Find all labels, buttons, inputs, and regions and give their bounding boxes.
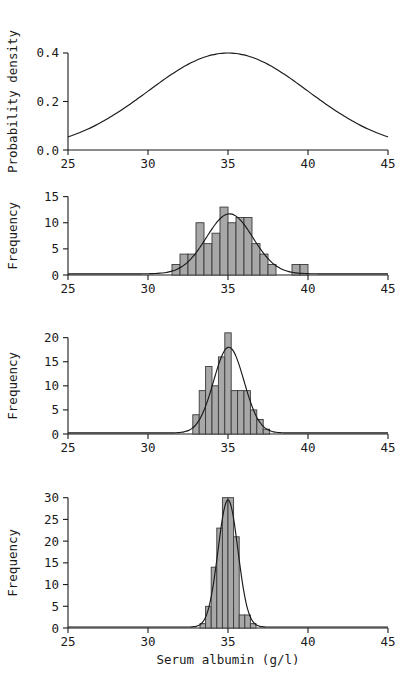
histogram-bars xyxy=(172,207,308,275)
panel-4: 051015202530Frequency2530354045Serum alb… xyxy=(5,490,396,667)
y-tick-label: 10 xyxy=(44,378,59,393)
y-tick-label: 20 xyxy=(44,330,59,345)
histogram-bar xyxy=(245,615,251,628)
y-axis-title: Frequency xyxy=(5,201,20,269)
y-tick-label: 0 xyxy=(51,268,59,283)
x-tick-label: 35 xyxy=(220,281,235,296)
x-tick-label: 45 xyxy=(380,440,395,455)
y-axis-title: Frequency xyxy=(5,351,20,419)
y-axis-title: Frequency xyxy=(5,529,20,597)
histogram-bar xyxy=(196,223,204,275)
y-tick-label: 15 xyxy=(44,189,59,204)
panel-3: 05101520Frequency2530354045 xyxy=(5,330,396,455)
histogram-bar xyxy=(212,233,220,275)
y-axis-title: Probability density xyxy=(5,30,20,173)
histogram-bar xyxy=(228,223,236,275)
x-tick-label: 35 xyxy=(220,634,235,649)
y-tick-label: 10 xyxy=(44,577,59,592)
y-tick-label: 0 xyxy=(51,427,59,442)
x-tick-label: 40 xyxy=(300,156,315,171)
multi-panel-histogram-figure: 0.00.20.4Probability density253035404505… xyxy=(0,0,406,687)
histogram-bar xyxy=(239,615,245,628)
histogram-bar xyxy=(217,528,223,628)
histogram-bar xyxy=(212,386,218,434)
histogram-bar xyxy=(218,357,224,434)
y-tick-label: 5 xyxy=(51,402,59,417)
y-tick-label: 0.4 xyxy=(36,45,59,60)
x-tick-label: 40 xyxy=(300,281,315,296)
y-tick-label: 0.0 xyxy=(36,143,59,158)
x-tick-label: 35 xyxy=(220,440,235,455)
histogram-bar xyxy=(238,391,244,434)
x-tick-label: 30 xyxy=(140,440,155,455)
histogram-bar xyxy=(268,265,276,275)
histogram-bar xyxy=(250,410,256,434)
y-tick-label: 5 xyxy=(51,599,59,614)
y-tick-label: 15 xyxy=(44,354,59,369)
y-tick-label: 20 xyxy=(44,534,59,549)
y-tick-label: 10 xyxy=(44,215,59,230)
x-tick-label: 25 xyxy=(60,634,75,649)
y-tick-label: 25 xyxy=(44,512,59,527)
x-tick-label: 30 xyxy=(140,156,155,171)
x-tick-label: 45 xyxy=(380,156,395,171)
x-tick-label: 25 xyxy=(60,281,75,296)
y-tick-label: 15 xyxy=(44,555,59,570)
density-curve xyxy=(68,53,388,137)
y-tick-label: 5 xyxy=(51,241,59,256)
histogram-bar xyxy=(231,391,237,434)
histogram-bar xyxy=(228,498,234,628)
x-tick-label: 25 xyxy=(60,440,75,455)
x-tick-label: 45 xyxy=(380,634,395,649)
histogram-bar xyxy=(252,244,260,275)
x-tick-label: 25 xyxy=(60,156,75,171)
y-tick-label: 0.2 xyxy=(36,94,59,109)
y-tick-label: 30 xyxy=(44,490,59,505)
x-tick-label: 40 xyxy=(300,634,315,649)
x-tick-label: 30 xyxy=(140,634,155,649)
y-tick-label: 0 xyxy=(51,621,59,636)
x-tick-label: 45 xyxy=(380,281,395,296)
x-axis-title: Serum albumin (g/l) xyxy=(157,652,300,667)
x-tick-label: 30 xyxy=(140,281,155,296)
histogram-bar xyxy=(199,391,205,434)
figure-panel-stack: 0.00.20.4Probability density253035404505… xyxy=(0,0,406,687)
histogram-bar xyxy=(236,218,244,275)
panel-1: 0.00.20.4Probability density2530354045 xyxy=(5,30,396,173)
panel-2: 051015Frequency2530354045 xyxy=(5,189,396,296)
histogram-bar xyxy=(222,498,228,628)
histogram-bar xyxy=(206,367,212,434)
x-tick-label: 35 xyxy=(220,156,235,171)
x-tick-label: 40 xyxy=(300,440,315,455)
histogram-bar xyxy=(204,244,212,275)
